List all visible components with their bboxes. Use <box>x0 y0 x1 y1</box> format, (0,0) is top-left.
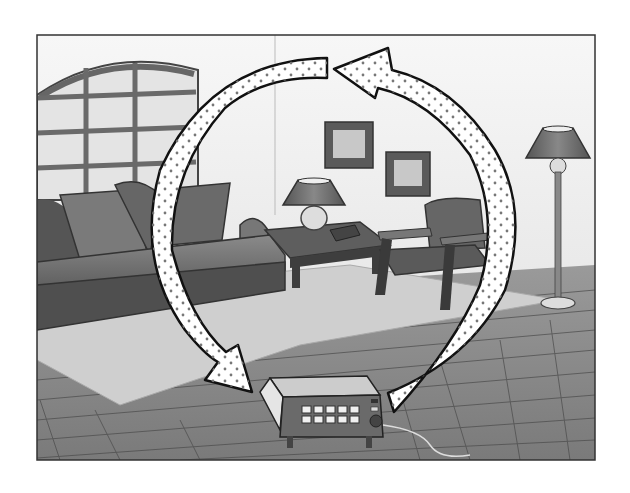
convection-diagram <box>0 0 630 493</box>
picture-frame-1 <box>325 122 373 168</box>
picture-frame-2 <box>386 152 430 196</box>
